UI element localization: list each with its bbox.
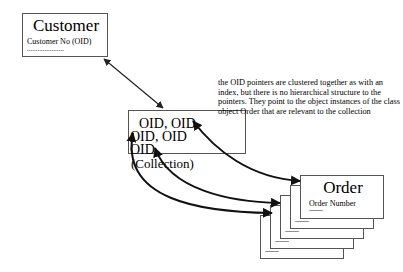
order-title: Order xyxy=(301,178,385,198)
customer-class-box: Customer Customer No (OID) .............… xyxy=(22,13,108,57)
order-class-box: Order Order Number --------- xyxy=(300,175,384,219)
order-more-attributes: --------- xyxy=(309,207,322,213)
customer-collection-arrow xyxy=(104,59,163,108)
collection-label: (Collection) xyxy=(131,156,194,172)
oid-row-3: OID, xyxy=(130,143,158,156)
explanation-note: the OID pointers are clustered together … xyxy=(218,78,403,116)
customer-title: Customer xyxy=(23,16,109,36)
oid-collection-box: OID, OID OID, OID OID, xyxy=(128,110,246,154)
customer-more-attributes: ..................... xyxy=(27,45,64,53)
